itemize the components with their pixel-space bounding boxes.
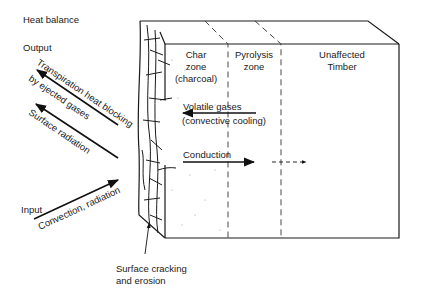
svg-text:(charcoal): (charcoal) bbox=[175, 73, 217, 84]
surface-cracks bbox=[142, 25, 176, 233]
volatile-label-2: (convective cooling) bbox=[182, 115, 266, 126]
zone-pyrolysis: Pyrolysis zone bbox=[235, 49, 273, 72]
svg-text:Timber: Timber bbox=[327, 61, 356, 72]
callout-leader bbox=[145, 224, 149, 254]
heat-balance-diagram: Heat balance Output Input bbox=[0, 0, 421, 298]
convection-radiation-label: Convection, radiation bbox=[36, 184, 122, 232]
input-label: Input bbox=[21, 204, 42, 215]
callout-label-2: and erosion bbox=[116, 275, 166, 286]
svg-text:zone: zone bbox=[186, 61, 207, 72]
conduction-label: Conduction bbox=[183, 149, 231, 160]
zone-unaffected: Unaffected Timber bbox=[319, 49, 365, 72]
svg-text:zone: zone bbox=[244, 61, 265, 72]
callout-label-1: Surface cracking bbox=[116, 263, 187, 274]
diagram-title: Heat balance bbox=[23, 14, 79, 25]
left-face-edge bbox=[138, 21, 165, 238]
output-label: Output bbox=[23, 42, 52, 53]
zone-char: Char zone (charcoal) bbox=[175, 49, 217, 84]
svg-text:Unaffected: Unaffected bbox=[319, 49, 365, 60]
char-pyrolysis-boundary bbox=[205, 21, 228, 238]
volatile-label-1: Volatile gases bbox=[183, 101, 242, 112]
top-back-edge bbox=[140, 21, 399, 44]
svg-text:Char: Char bbox=[186, 49, 207, 60]
svg-text:Pyrolysis: Pyrolysis bbox=[235, 49, 273, 60]
